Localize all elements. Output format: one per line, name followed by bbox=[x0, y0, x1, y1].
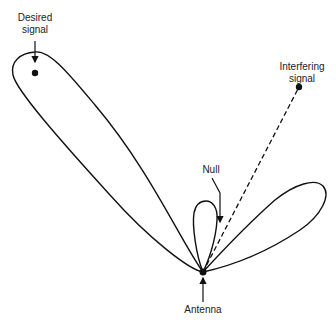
null-arrow bbox=[212, 178, 220, 222]
main-lobe bbox=[12, 52, 203, 272]
null-label-text: Null bbox=[197, 164, 225, 176]
interfering-label-line1: Interfering bbox=[272, 61, 332, 73]
side-lobe bbox=[203, 182, 326, 272]
null-label: Null bbox=[197, 164, 225, 176]
antenna-label-text: Antenna bbox=[180, 304, 226, 316]
desired-signal-dot bbox=[32, 70, 38, 76]
desired-signal-label: Desired signal bbox=[12, 12, 58, 36]
interfering-signal-label: Interfering signal bbox=[272, 61, 332, 85]
antenna-dot bbox=[200, 269, 207, 276]
antenna-label: Antenna bbox=[180, 304, 226, 316]
interfering-label-line2: signal bbox=[272, 73, 332, 85]
interference-path bbox=[203, 87, 299, 272]
desired-label-line2: signal bbox=[12, 24, 58, 36]
desired-label-line1: Desired bbox=[12, 12, 58, 24]
radiation-pattern-diagram bbox=[0, 0, 336, 323]
